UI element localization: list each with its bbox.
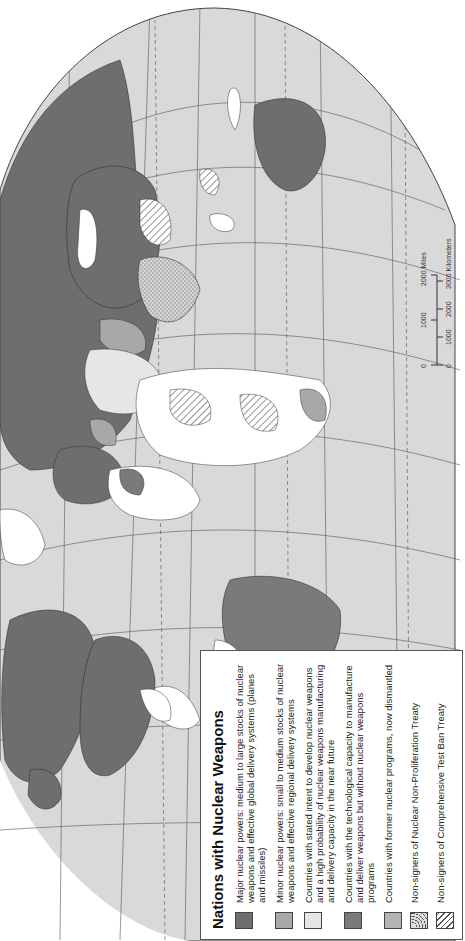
swatch-major-power [235, 912, 253, 929]
legend-item-npt: Non-signers of Nuclear Non-Proliferation… [409, 661, 428, 929]
scale-bar: 0 1000 2000 Miles 0 1000 2000 3000 Kilom… [412, 260, 462, 370]
swatch-minor-power [275, 912, 293, 929]
legend-item-major: Major nuclear powers: medium to large st… [234, 661, 267, 929]
swatch-stated-intent [304, 912, 322, 929]
legend-item-stated-intent: Countries with stated intent to develop … [303, 661, 336, 929]
region-mongolia [78, 209, 97, 268]
legend-item-minor: Minor nuclear powers: small to medium st… [274, 661, 296, 929]
swatch-hatched [436, 912, 454, 929]
legend-title: Nations with Nuclear Weapons [209, 661, 226, 929]
legend-item-ctbt: Non-signers of Comprehensive Test Ban Tr… [435, 661, 454, 929]
map-figure: Nations with Nuclear Weapons Major nucle… [0, 0, 465, 941]
swatch-former-programs [384, 912, 402, 929]
swatch-tech-capacity [344, 912, 362, 929]
legend-item-former: Countries with former nuclear programs, … [383, 661, 402, 929]
legend-item-tech-capacity: Countries with the technological capacit… [343, 661, 376, 929]
swatch-dotted [410, 912, 428, 929]
legend: Nations with Nuclear Weapons Major nucle… [200, 650, 463, 940]
